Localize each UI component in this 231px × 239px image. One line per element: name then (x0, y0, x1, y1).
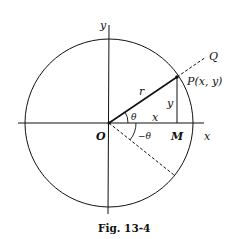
unit-circle-diagram: y x O P(x, y) Q M r y x θ −θ Fig. 13-4 (0, 0, 231, 239)
neg-theta-label: −θ (138, 131, 152, 141)
radius-label: r (139, 85, 145, 98)
point-q-label: Q (209, 50, 218, 63)
y-axis (108, 25, 109, 214)
leg-y-label: y (166, 97, 174, 110)
point-m-label: M (170, 130, 184, 143)
point-p (175, 75, 179, 79)
figure-caption: Fig. 13-4 (98, 222, 150, 234)
origin-label: O (96, 130, 106, 143)
angle-arc-neg-theta (130, 123, 136, 140)
x-axis-label: x (204, 130, 211, 143)
angle-arc-theta (125, 112, 128, 123)
leg-x-label: x (152, 111, 159, 124)
point-p-label: P(x, y) (186, 75, 222, 88)
ray-pq (177, 57, 206, 77)
y-axis-label: y (99, 19, 107, 32)
point-o (108, 122, 111, 125)
theta-label: θ (131, 112, 137, 122)
